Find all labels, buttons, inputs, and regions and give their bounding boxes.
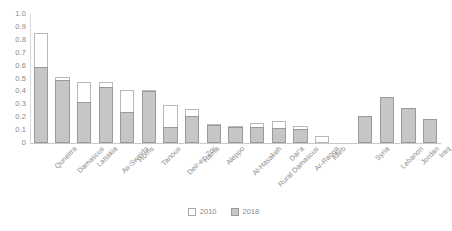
bar-2018[interactable] [423, 119, 437, 144]
bar-2018[interactable] [380, 97, 394, 143]
plot-area [30, 14, 441, 143]
legend-swatch-2010 [188, 208, 196, 216]
bar-group[interactable] [358, 14, 372, 143]
x-tick-label: Syria [374, 145, 391, 162]
y-tick-label: 0.4 [15, 87, 26, 95]
bar-group[interactable] [163, 14, 177, 143]
y-tick-label: 0 [22, 139, 26, 147]
legend-item[interactable]: 2018 [231, 208, 260, 216]
legend-item[interactable]: 2010 [188, 208, 217, 216]
y-tick-label: 1.0 [15, 10, 26, 18]
bar-group[interactable] [77, 14, 91, 143]
bar-2018[interactable] [272, 128, 286, 143]
legend-label: 2010 [200, 208, 217, 216]
y-tick-label: 0.3 [15, 100, 26, 108]
bar-2018[interactable] [55, 80, 69, 143]
y-axis-tick-labels: 1.00.90.80.70.60.50.40.30.20.10 [0, 0, 30, 143]
bar-2018[interactable] [228, 127, 242, 144]
bar-group[interactable] [380, 14, 394, 143]
y-tick-label: 0.1 [15, 126, 26, 134]
bar-2018[interactable] [163, 127, 177, 143]
y-tick-label: 0.9 [15, 23, 26, 31]
bar-2018[interactable] [120, 112, 134, 143]
y-tick-label: 0.6 [15, 62, 26, 70]
bar-2018[interactable] [250, 127, 264, 143]
legend-swatch-2018 [231, 208, 239, 216]
bar-group[interactable] [99, 14, 113, 143]
bar-2018[interactable] [401, 108, 415, 143]
bar-group[interactable] [142, 14, 156, 143]
bar-group[interactable] [185, 14, 199, 143]
bar-2018[interactable] [185, 116, 199, 143]
x-tick-label: Al-Hasakeh [251, 145, 283, 177]
x-tick-label: Hama [202, 145, 221, 164]
bar-group[interactable] [207, 14, 221, 143]
x-tick-label: Quneitra [53, 145, 78, 170]
bar-2018[interactable] [99, 87, 113, 143]
x-tick-label: Aleppo [225, 145, 247, 167]
bar-group[interactable] [315, 14, 329, 143]
x-axis-tick-labels: QuneitraDamascusLattakiaAs-SweidaHomsTar… [30, 145, 441, 203]
chart-legend: 20102018 [0, 208, 447, 216]
bar-2018[interactable] [293, 129, 307, 143]
x-axis-line [30, 143, 441, 144]
bar-group[interactable] [272, 14, 286, 143]
bar-2018[interactable] [207, 125, 221, 143]
x-tick-label: Iraq [438, 145, 452, 160]
y-tick-label: 0.7 [15, 49, 26, 57]
bar-group[interactable] [250, 14, 264, 143]
bar-2010[interactable] [315, 136, 329, 143]
bar-group[interactable] [228, 14, 242, 143]
legend-label: 2018 [243, 208, 260, 216]
bar-group[interactable] [55, 14, 69, 143]
y-tick-label: 0.5 [15, 75, 26, 83]
bar-group[interactable] [423, 14, 437, 143]
y-tick-label: 0.2 [15, 113, 26, 121]
x-tick-label: Tartous [160, 145, 183, 168]
bar-group[interactable] [120, 14, 134, 143]
bar-2018[interactable] [34, 67, 48, 143]
bar-gap [337, 14, 351, 143]
bar-2018[interactable] [358, 116, 372, 143]
bar-2018[interactable] [142, 91, 156, 143]
y-tick-label: 0.8 [15, 36, 26, 44]
bar-group[interactable] [34, 14, 48, 143]
bar-group[interactable] [293, 14, 307, 143]
bar-group[interactable] [401, 14, 415, 143]
bar-2018[interactable] [77, 102, 91, 143]
